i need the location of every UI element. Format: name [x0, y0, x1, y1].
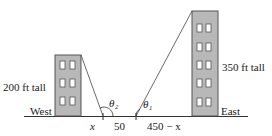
- theta1-label: θ₁: [143, 99, 152, 110]
- west-label: West: [30, 106, 52, 117]
- west-building: [55, 55, 81, 116]
- segment-50-label: 50: [114, 121, 125, 132]
- segment-x-label: x: [90, 121, 95, 132]
- west-height-label: 200 ft tall: [3, 82, 46, 93]
- east-building: [192, 11, 218, 116]
- segment-450-x-label: 450 − x: [147, 121, 181, 132]
- east-label: East: [221, 106, 240, 117]
- east-height-label: 350 ft tall: [222, 62, 265, 73]
- theta2-label: θ₂: [109, 98, 118, 109]
- sight-line-west: [81, 55, 103, 116]
